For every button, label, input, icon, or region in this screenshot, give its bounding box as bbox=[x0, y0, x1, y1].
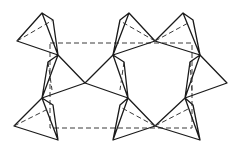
tetrahedron-bl bbox=[14, 98, 58, 140]
tetrahedron-br bbox=[155, 98, 200, 140]
tetrahedron-tr bbox=[155, 13, 200, 55]
tetrahedron-mr bbox=[185, 55, 227, 98]
tetrahedron-tm bbox=[113, 13, 155, 55]
tetrahedron-tl bbox=[17, 13, 58, 55]
tetrahedra-group bbox=[14, 13, 227, 140]
unit-cell-outline bbox=[50, 43, 192, 128]
tetrahedron-bm bbox=[113, 98, 155, 140]
tetrahedron-ml bbox=[42, 55, 85, 98]
tetrahedron-mm bbox=[85, 55, 128, 98]
tetrahedra-diagram bbox=[0, 0, 243, 151]
